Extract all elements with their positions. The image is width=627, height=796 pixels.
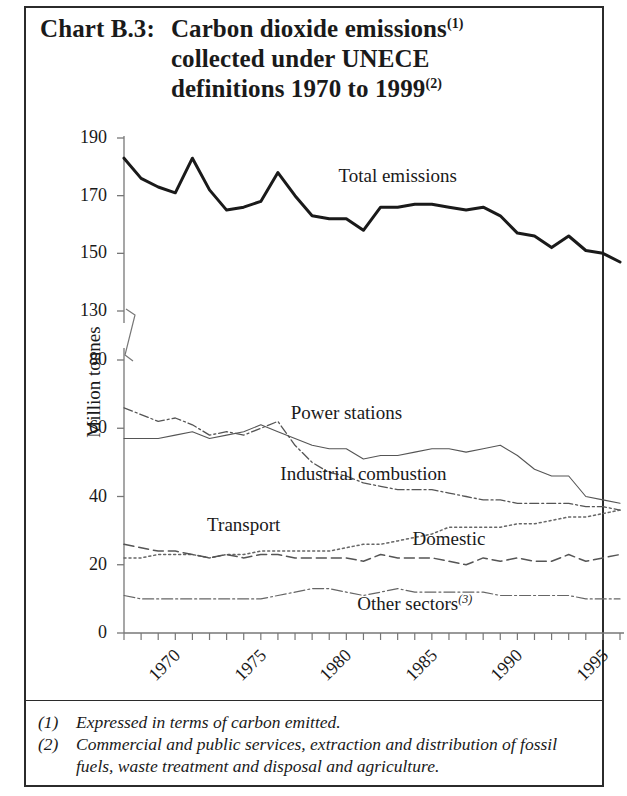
chart-frame: Chart B.3: Carbon dioxide emissions(1) c… bbox=[24, 6, 604, 787]
series-line-domestic bbox=[124, 544, 620, 565]
footnote-divider bbox=[26, 700, 602, 701]
footnote-number: (1) bbox=[38, 711, 76, 733]
series-label-text: Industrial combustion bbox=[280, 463, 446, 484]
series-label-text: Total emissions bbox=[338, 165, 456, 186]
footnote-row: (2) Commercial and public services, extr… bbox=[38, 733, 594, 777]
chart-plot-area: Million tonnes 1301501701900204060801970… bbox=[26, 126, 606, 686]
title-line-1-text: Carbon dioxide emissions bbox=[171, 15, 447, 42]
series-label-domestic: Domestic bbox=[413, 528, 486, 550]
title-lines: Carbon dioxide emissions(1) collected un… bbox=[171, 14, 464, 104]
y-tick-label-170: 170 bbox=[61, 185, 107, 206]
chart-number-label: Chart B.3: bbox=[40, 14, 155, 44]
series-label-text: Domestic bbox=[413, 528, 486, 549]
series-label-other-sectors: Other sectors(3) bbox=[357, 593, 472, 615]
y-tick-label-190: 190 bbox=[61, 127, 107, 148]
series-label-power-stations: Power stations bbox=[291, 402, 402, 424]
title-line-2: collected under UNECE bbox=[171, 44, 464, 74]
series-label-text: Power stations bbox=[291, 402, 402, 423]
y-tick-label-150: 150 bbox=[61, 242, 107, 263]
series-line-transport bbox=[124, 510, 620, 558]
footnote-text: Expressed in terms of carbon emitted. bbox=[76, 711, 594, 733]
series-label-text: Transport bbox=[207, 514, 280, 535]
y-tick-label-130: 130 bbox=[61, 300, 107, 321]
footnote-number: (2) bbox=[38, 733, 76, 777]
title-line-3: definitions 1970 to 1999(2) bbox=[171, 74, 464, 104]
page-title: Chart B.3: Carbon dioxide emissions(1) c… bbox=[40, 14, 585, 104]
series-label-total-emissions: Total emissions bbox=[338, 165, 456, 187]
series-label-text: Other sectors bbox=[357, 593, 458, 614]
y-tick-label-0: 0 bbox=[61, 622, 107, 643]
series-label-transport: Transport bbox=[207, 514, 280, 536]
footnotes: (1) Expressed in terms of carbon emitted… bbox=[38, 711, 594, 777]
title-footnote-ref-1: (1) bbox=[447, 16, 464, 31]
title-line-1: Carbon dioxide emissions(1) bbox=[171, 14, 464, 44]
title-footnote-ref-2: (2) bbox=[425, 76, 442, 91]
y-tick-label-80: 80 bbox=[61, 349, 107, 370]
y-tick-label-40: 40 bbox=[61, 486, 107, 507]
footnote-text: Commercial and public services, extracti… bbox=[76, 733, 594, 777]
series-label-industrial-combustion: Industrial combustion bbox=[280, 463, 446, 485]
y-tick-label-20: 20 bbox=[61, 554, 107, 575]
title-line-3-text: definitions 1970 to 1999 bbox=[171, 75, 426, 102]
y-tick-label-60: 60 bbox=[61, 417, 107, 438]
footnote-row: (1) Expressed in terms of carbon emitted… bbox=[38, 711, 594, 733]
other-sectors-footnote-ref: (3) bbox=[458, 591, 472, 605]
